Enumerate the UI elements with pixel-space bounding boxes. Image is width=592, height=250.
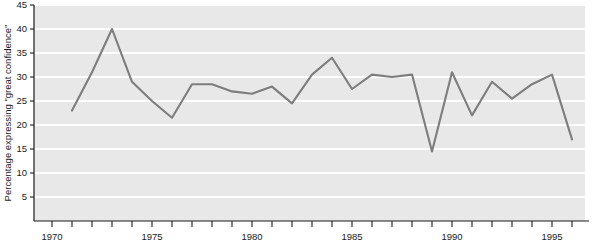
y-axis-title: Percentage expressing "great confidence"	[2, 25, 13, 202]
y-tick-group: 51015202530354045	[16, 0, 34, 202]
y-tick-label: 35	[16, 47, 27, 58]
y-tick-label: 10	[16, 167, 27, 178]
x-tick-label: 1980	[241, 231, 262, 242]
y-tick-label: 20	[16, 119, 27, 130]
y-tick-label: 30	[16, 71, 27, 82]
x-tick-group: 197019751980198519901995	[41, 221, 572, 242]
y-tick-label: 45	[16, 0, 27, 10]
plot-background-group	[34, 5, 585, 221]
y-tick-label: 25	[16, 95, 27, 106]
x-tick-label: 1975	[141, 231, 162, 242]
chart-container: 51015202530354045 1970197519801985199019…	[0, 0, 592, 250]
y-tick-label: 40	[16, 23, 27, 34]
line-chart: 51015202530354045 1970197519801985199019…	[0, 0, 592, 250]
y-tick-label: 5	[22, 191, 27, 202]
plot-area-background	[34, 5, 585, 221]
x-tick-label: 1995	[541, 231, 562, 242]
x-tick-label: 1990	[441, 231, 462, 242]
x-tick-label: 1970	[41, 231, 62, 242]
y-tick-label: 15	[16, 143, 27, 154]
x-tick-label: 1985	[341, 231, 362, 242]
